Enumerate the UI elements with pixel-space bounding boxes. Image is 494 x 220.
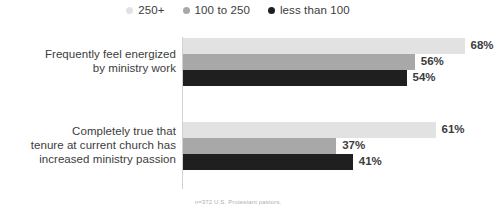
bar-row[interactable]: 54% <box>183 70 494 86</box>
bar-row[interactable]: 61% <box>183 122 465 138</box>
bar-stack: 61% 37% 41% <box>183 122 465 170</box>
bar[interactable] <box>183 154 353 170</box>
bar-value-label: 68% <box>471 40 494 52</box>
legend-swatch-icon <box>126 7 133 14</box>
bar-value-label: 61% <box>442 124 465 136</box>
legend-swatch-icon <box>268 7 275 14</box>
bar[interactable] <box>183 70 407 86</box>
bar[interactable] <box>183 54 415 70</box>
legend-swatch-icon <box>183 7 190 14</box>
legend-label: less than 100 <box>280 5 350 17</box>
category-label: Frequently feel energized by ministry wo… <box>0 47 176 75</box>
chart-footnote: n=372 U.S. Protestant pastors. <box>0 199 476 205</box>
legend-item-250-plus[interactable]: 250+ <box>126 5 164 17</box>
bar-row[interactable]: 41% <box>183 154 465 170</box>
category-label-line: increased ministry passion <box>39 153 176 165</box>
bar-row[interactable]: 37% <box>183 138 465 154</box>
legend-item-100-to-250[interactable]: 100 to 250 <box>183 5 250 17</box>
bar-stack: 68% 56% 54% <box>183 38 494 86</box>
category-label-line: Frequently feel energized <box>45 48 176 60</box>
bar[interactable] <box>183 138 336 154</box>
bar[interactable] <box>183 122 436 138</box>
bar-row[interactable]: 56% <box>183 54 494 70</box>
bar-row[interactable]: 68% <box>183 38 494 54</box>
bar-value-label: 56% <box>421 56 444 68</box>
legend-label: 100 to 250 <box>195 5 250 17</box>
bar[interactable] <box>183 38 465 54</box>
category-label-line: Completely true that <box>72 125 176 137</box>
category-label-line: tenure at current church has <box>31 139 176 151</box>
category-label-line: by ministry work <box>93 62 176 74</box>
plot-area: Frequently feel energized by ministry wo… <box>0 30 476 190</box>
bar-value-label: 54% <box>413 72 436 84</box>
chart-legend: 250+ 100 to 250 less than 100 <box>0 5 476 17</box>
bar-value-label: 37% <box>342 140 365 152</box>
bar-value-label: 41% <box>359 156 382 168</box>
category-label: Completely true that tenure at current c… <box>0 124 176 166</box>
legend-label: 250+ <box>138 5 164 17</box>
legend-item-less-than-100[interactable]: less than 100 <box>268 5 350 17</box>
